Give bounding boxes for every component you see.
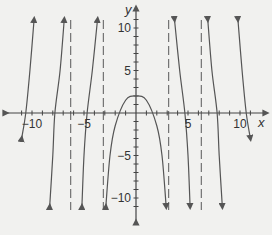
y-tick-label: −10 (111, 191, 132, 205)
y-tick-label: 10 (118, 21, 132, 35)
axes (6, 8, 266, 222)
x-tick-label: −5 (77, 117, 91, 131)
x-tick-label: −10 (22, 117, 43, 131)
function-graph: −10−5510105−5−10 x y Figure (0, 0, 272, 235)
figure-caption: Figure (106, 232, 146, 235)
x-tick-label: 5 (185, 117, 192, 131)
x-tick-label: 10 (233, 117, 247, 131)
y-axis-label: y (124, 2, 133, 17)
x-axis-label: x (257, 115, 265, 130)
y-tick-label: 5 (124, 64, 131, 78)
y-tick-label: −5 (117, 149, 131, 163)
